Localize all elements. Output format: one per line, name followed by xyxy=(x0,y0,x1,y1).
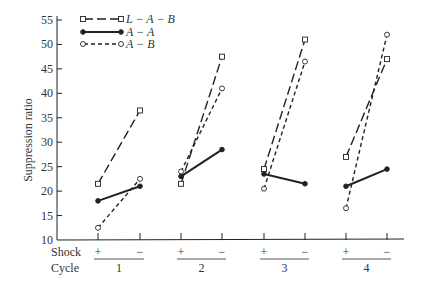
series-segment xyxy=(346,59,387,157)
filled-circle-marker xyxy=(385,167,390,172)
cycle-label: 4 xyxy=(364,261,370,275)
shock-plus-label: + xyxy=(178,245,185,259)
series-0 xyxy=(96,37,390,186)
square-marker xyxy=(385,57,390,62)
open-circle-marker xyxy=(96,225,101,230)
shock-plus-label: + xyxy=(261,245,268,259)
series-2 xyxy=(96,32,390,230)
legend: L − A − BA − AA − B xyxy=(81,12,176,51)
y-tick-label: 35 xyxy=(41,111,53,125)
series-segment xyxy=(98,110,140,183)
shock-plus-label: + xyxy=(95,245,102,259)
y-tick-label: 50 xyxy=(41,37,53,51)
shock-row-label: Shock xyxy=(51,245,81,259)
y-tick-label: 20 xyxy=(41,184,53,198)
square-marker xyxy=(344,154,349,159)
series-segment xyxy=(264,174,305,184)
open-circle-marker xyxy=(119,42,124,47)
y-tick-label: 45 xyxy=(41,62,53,76)
filled-circle-marker xyxy=(119,30,124,35)
series-segment xyxy=(98,186,140,201)
y-tick-label: 30 xyxy=(41,135,53,149)
open-circle-marker xyxy=(138,176,143,181)
square-marker xyxy=(262,167,267,172)
filled-circle-marker xyxy=(344,184,349,189)
open-circle-marker xyxy=(179,169,184,174)
y-axis-title: Suppression ratio xyxy=(21,98,35,182)
filled-circle-marker xyxy=(138,184,143,189)
square-marker xyxy=(303,37,308,42)
square-marker xyxy=(96,181,101,186)
square-marker xyxy=(119,17,124,22)
square-marker xyxy=(138,108,143,113)
suppression-ratio-chart: 10152025303540455055Suppression ratio L … xyxy=(0,0,422,283)
series-segment xyxy=(264,62,305,189)
series-segment xyxy=(181,57,222,184)
shock-minus-label: − xyxy=(219,245,226,259)
shock-minus-label: − xyxy=(137,245,144,259)
open-circle-marker xyxy=(303,59,308,64)
y-tick-label: 55 xyxy=(41,13,53,27)
x-axis-labels: ShockCycle+−1+−2+−3+−4 xyxy=(51,245,391,275)
y-tick-label: 15 xyxy=(41,209,53,223)
filled-circle-marker xyxy=(81,30,86,35)
cycle-label: 1 xyxy=(116,261,122,275)
open-circle-marker xyxy=(385,32,390,37)
cycle-row-label: Cycle xyxy=(51,261,79,275)
filled-circle-marker xyxy=(303,181,308,186)
cycle-label: 2 xyxy=(199,261,205,275)
cycle-label: 3 xyxy=(282,261,288,275)
filled-circle-marker xyxy=(220,147,225,152)
shock-plus-label: + xyxy=(343,245,350,259)
series-layer xyxy=(96,32,390,230)
open-circle-marker xyxy=(344,206,349,211)
shock-minus-label: − xyxy=(384,245,391,259)
series-segment xyxy=(181,88,222,171)
y-tick-label: 40 xyxy=(41,86,53,100)
square-marker xyxy=(81,17,86,22)
open-circle-marker xyxy=(81,42,86,47)
open-circle-marker xyxy=(220,86,225,91)
square-marker xyxy=(220,54,225,59)
open-circle-marker xyxy=(262,186,267,191)
shock-minus-label: − xyxy=(302,245,309,259)
y-tick-label: 25 xyxy=(41,160,53,174)
filled-circle-marker xyxy=(262,172,267,177)
series-segment xyxy=(98,179,140,228)
square-marker xyxy=(179,181,184,186)
legend-label: L − A − B xyxy=(125,12,176,26)
series-segment xyxy=(346,35,387,209)
series-segment xyxy=(346,169,387,186)
axes: 10152025303540455055Suppression ratio xyxy=(21,13,404,247)
filled-circle-marker xyxy=(179,174,184,179)
filled-circle-marker xyxy=(96,199,101,204)
series-segment xyxy=(264,40,305,170)
legend-label: A − B xyxy=(125,37,155,51)
x-axis-line xyxy=(57,239,404,240)
